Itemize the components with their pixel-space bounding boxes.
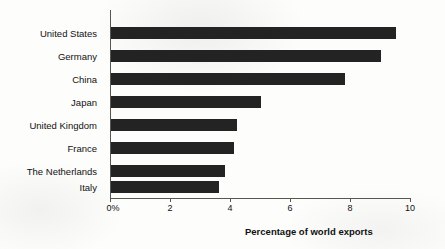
x-axis-tick xyxy=(230,198,231,202)
category-label-italy: Italy xyxy=(80,182,97,193)
bar-the-netherlands xyxy=(111,165,225,177)
x-tick-label-4: 4 xyxy=(227,203,232,213)
category-label-france: France xyxy=(67,143,97,154)
x-tick-label-10: 10 xyxy=(405,203,415,213)
bar-china xyxy=(111,73,345,85)
category-label-the-netherlands: The Netherlands xyxy=(27,166,97,177)
bar-germany xyxy=(111,50,381,62)
bar-chart: 0% 2 4 6 8 10 United States Germany Chin… xyxy=(0,0,445,249)
category-label-china: China xyxy=(72,74,97,85)
x-tick-label-2: 2 xyxy=(167,203,172,213)
x-axis-title: Percentage of world exports xyxy=(245,226,373,237)
category-label-united-states: United States xyxy=(40,28,97,39)
bar-italy xyxy=(111,181,219,193)
x-axis-tick xyxy=(350,198,351,202)
x-axis-line xyxy=(110,198,410,199)
x-tick-label-6: 6 xyxy=(287,203,292,213)
x-axis-tick xyxy=(110,198,111,202)
bar-france xyxy=(111,142,234,154)
x-axis-tick xyxy=(410,198,411,202)
bar-united-kingdom xyxy=(111,119,237,131)
bar-united-states xyxy=(111,27,396,39)
plot-area: 0% 2 4 6 8 10 United States Germany Chin… xyxy=(0,0,445,249)
category-label-germany: Germany xyxy=(58,51,97,62)
bar-japan xyxy=(111,96,261,108)
category-label-japan: Japan xyxy=(71,97,97,108)
x-tick-label-0: 0% xyxy=(106,203,119,213)
x-axis-tick xyxy=(170,198,171,202)
x-axis-tick xyxy=(290,198,291,202)
category-label-united-kingdom: United Kingdom xyxy=(29,120,97,131)
x-tick-label-8: 8 xyxy=(347,203,352,213)
